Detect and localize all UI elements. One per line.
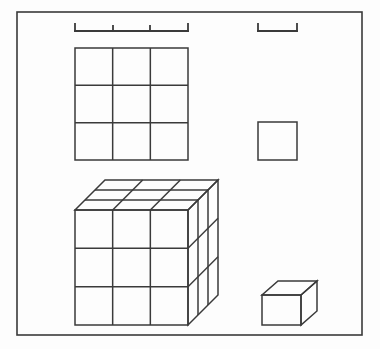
figure-background — [0, 0, 380, 349]
figure-canvas — [0, 0, 380, 349]
geometry-figure-svg — [0, 0, 380, 349]
